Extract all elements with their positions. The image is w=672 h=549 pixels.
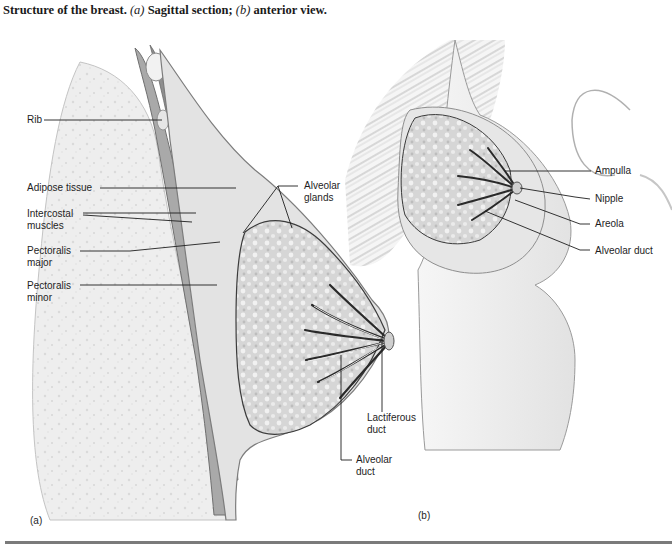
label-rib: Rib — [27, 114, 42, 126]
label-pectoralis-major: Pectoralis major — [27, 245, 71, 268]
panel-b-marker: (b) — [418, 510, 430, 521]
label-ampulla: Ampulla — [595, 165, 631, 177]
label-alveolar-duct-b: Alveolar duct — [595, 245, 653, 257]
label-pectoralis-minor: Pectoralis minor — [27, 280, 71, 303]
label-adipose-tissue: Adipose tissue — [27, 182, 92, 194]
label-nipple: Nipple — [595, 193, 623, 205]
label-areola: Areola — [595, 218, 624, 230]
label-lactiferous-duct: Lactiferous duct — [367, 412, 416, 435]
bottom-divider — [5, 541, 672, 544]
panel-a-illustration — [33, 45, 394, 520]
breast-illustration — [0, 0, 672, 549]
panel-a-marker: (a) — [30, 515, 42, 526]
label-intercostal-muscles: Intercostal muscles — [27, 208, 73, 231]
label-alveolar-duct-a: Alveolar duct — [356, 454, 392, 477]
label-alveolar-glands: Alveolar glands — [304, 180, 340, 203]
